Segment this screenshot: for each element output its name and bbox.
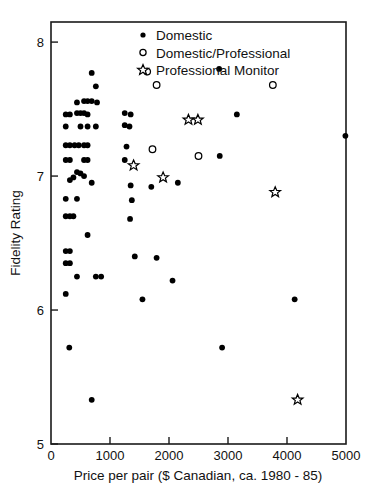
data-point-domestic-professional	[270, 82, 277, 89]
data-point-domestic	[132, 254, 138, 260]
y-tick-label: 6	[37, 303, 44, 318]
data-point-domestic	[66, 345, 72, 351]
data-point-domestic	[89, 98, 95, 104]
data-point-domestic	[127, 124, 133, 130]
data-point-domestic	[63, 124, 69, 130]
data-point-domestic	[94, 99, 100, 105]
data-point-domestic	[154, 255, 160, 261]
data-point-domestic	[71, 213, 77, 219]
data-point-domestic	[85, 157, 91, 163]
data-point-domestic	[93, 274, 99, 280]
data-point-domestic-professional	[195, 153, 202, 160]
data-point-domestic	[67, 177, 73, 183]
x-tick-label: 3000	[214, 448, 243, 463]
y-tick-label: 7	[37, 169, 44, 184]
data-point-domestic	[98, 274, 104, 280]
data-point-domestic	[85, 112, 91, 118]
data-point-domestic	[140, 296, 146, 302]
data-point-domestic	[129, 197, 135, 203]
data-point-domestic	[89, 180, 95, 186]
data-point-domestic	[67, 112, 73, 118]
data-point-domestic	[63, 196, 69, 202]
data-point-domestic	[128, 183, 134, 189]
x-tick-label: 1000	[96, 448, 125, 463]
data-point-domestic	[74, 99, 80, 105]
data-point-domestic	[81, 173, 87, 179]
data-point-domestic	[93, 124, 99, 130]
data-point-domestic	[93, 83, 99, 89]
data-point-domestic-professional	[153, 82, 160, 89]
scatter-plot-figure: 5678 010002000300040005000 Domestic Dome…	[0, 0, 372, 499]
data-point-domestic	[234, 112, 240, 118]
x-tick-label: 4000	[273, 448, 302, 463]
data-point-domestic	[124, 144, 130, 150]
data-point-domestic	[74, 274, 80, 280]
data-point-domestic	[217, 153, 223, 159]
data-point-domestic	[67, 248, 73, 254]
plot-canvas: 5678 010002000300040005000 Domestic Dome…	[0, 0, 372, 499]
data-point-domestic-professional	[149, 146, 156, 153]
data-point-domestic	[148, 184, 154, 190]
data-point-domestic	[78, 124, 84, 130]
data-point-domestic	[89, 70, 95, 76]
data-point-domestic	[67, 260, 73, 266]
data-point-domestic	[292, 296, 298, 302]
legend-label-domestic: Domestic	[156, 28, 213, 43]
legend-label-professional-monitor: Professional Monitor	[156, 63, 280, 78]
y-axis-title: Fidelity Rating	[8, 190, 23, 276]
data-point-domestic	[219, 345, 225, 351]
x-axis-title: Price per pair ($ Canadian, ca. 1980 - 8…	[74, 468, 322, 483]
legend-label-domestic-professional: Domestic/Professional	[156, 46, 290, 61]
data-point-domestic	[128, 112, 134, 118]
data-point-domestic	[67, 157, 73, 163]
x-tick-label: 5000	[332, 448, 361, 463]
data-point-domestic	[85, 142, 91, 148]
x-tick-label: 2000	[155, 448, 184, 463]
data-point-domestic	[89, 397, 95, 403]
data-point-domestic	[122, 110, 128, 116]
data-point-domestic	[127, 216, 133, 222]
data-point-domestic	[85, 232, 91, 238]
data-point-domestic	[74, 196, 80, 202]
y-tick-label: 5	[37, 437, 44, 452]
data-point-domestic	[85, 124, 91, 130]
data-point-domestic	[63, 291, 69, 297]
data-point-domestic	[122, 157, 128, 163]
data-point-domestic	[170, 278, 176, 284]
x-tick-label: 0	[47, 448, 54, 463]
filled-circle-icon	[140, 32, 145, 37]
data-point-domestic	[76, 142, 82, 148]
open-circle-icon	[140, 49, 146, 55]
y-tick-label: 8	[37, 35, 44, 50]
data-point-domestic	[175, 180, 181, 186]
data-point-domestic	[343, 133, 349, 139]
